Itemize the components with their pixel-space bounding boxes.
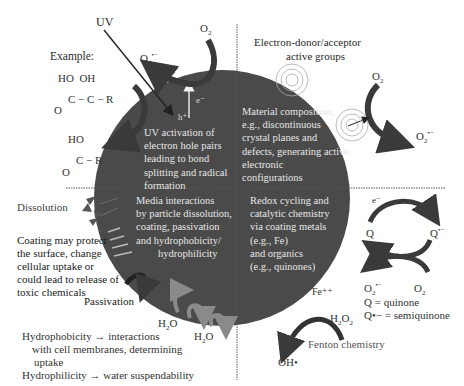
electron-quinone-label: e⁻ — [372, 194, 381, 207]
dissolution-label: Dissolution — [17, 201, 68, 214]
quadrant-media-interactions: Media interactions by particle dissoluti… — [136, 194, 232, 260]
donor-title-line1: Electron-donor/acceptor — [254, 36, 361, 49]
o2-quinone-label: O2 — [414, 282, 425, 295]
semiquinone-definition: Q•− = semiquinone — [364, 309, 450, 322]
molecule-2-ho: HO — [68, 133, 84, 146]
m1-ho: HO — [58, 72, 74, 84]
molecule-2-chain: C − R — [76, 154, 102, 167]
electron-right-label: e⁻ — [358, 112, 367, 125]
semiquinone-label: Q•− — [430, 227, 444, 240]
h2o2-label: H2O2 — [330, 312, 353, 325]
superoxide-right-label: O2•− — [416, 130, 434, 143]
o2-to-superoxide-arrow — [372, 256, 428, 272]
fenton-label: Fenton chemistry — [308, 338, 385, 351]
o2-reduction-arrow-right — [368, 85, 398, 142]
passivation-label: Passivation — [84, 295, 134, 308]
o2-right-label: O2 — [372, 70, 383, 83]
quadrant-uv-activation: UV activation of electron hole pairs lea… — [144, 126, 227, 192]
hole-label: h⁺ — [178, 111, 187, 124]
o2-top-label: O2 — [200, 22, 211, 35]
molecule-1-chain: C − C − R — [68, 93, 113, 106]
electron-uv-label: e⁻ — [196, 94, 205, 107]
molecule-1-o: O — [54, 104, 62, 117]
m1-oh: OH — [79, 72, 95, 84]
donor-title-line2: active groups — [286, 50, 345, 63]
coating-note: Coating may protect the surface, change … — [17, 234, 119, 299]
semiquinone-oxidation-arrow — [374, 240, 430, 256]
quinone-definition: Q = quinone — [364, 296, 419, 309]
water-label-1: H2O — [158, 317, 177, 330]
quinone-label: Q — [366, 227, 374, 240]
superoxide-top-label: O2•− — [140, 52, 158, 65]
hydroxyl-radical-label: OH• — [278, 356, 298, 369]
quadrant-material-composition: Material composition, e.g., discontinuou… — [242, 105, 349, 184]
example-label: Example: — [50, 50, 94, 63]
molecule-2-o: O — [62, 166, 70, 179]
molecule-1: HO OH — [58, 72, 95, 85]
hydrophobicity-note: Hydrophobicity → interactions with cell … — [22, 330, 194, 382]
uv-label: UV — [96, 16, 113, 29]
fe-label: Fe⁺⁺ — [312, 285, 333, 298]
water-label-2: H2O — [194, 330, 213, 343]
quadrant-redox-cycling: Redox cycling and catalytic chemistry vi… — [250, 194, 330, 273]
superoxide-quinone-label: O2•− — [364, 282, 382, 295]
